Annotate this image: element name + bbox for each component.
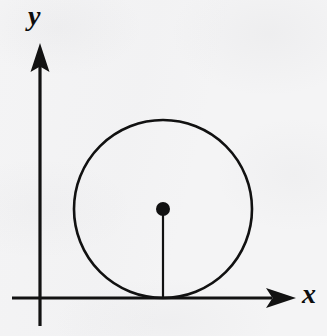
center-point-dot — [156, 202, 170, 216]
x-axis-label: x — [302, 280, 316, 308]
y-axis-label: y — [28, 2, 40, 30]
diagram-canvas: y x — [0, 0, 327, 336]
circle-tangent-diagram — [0, 0, 327, 336]
